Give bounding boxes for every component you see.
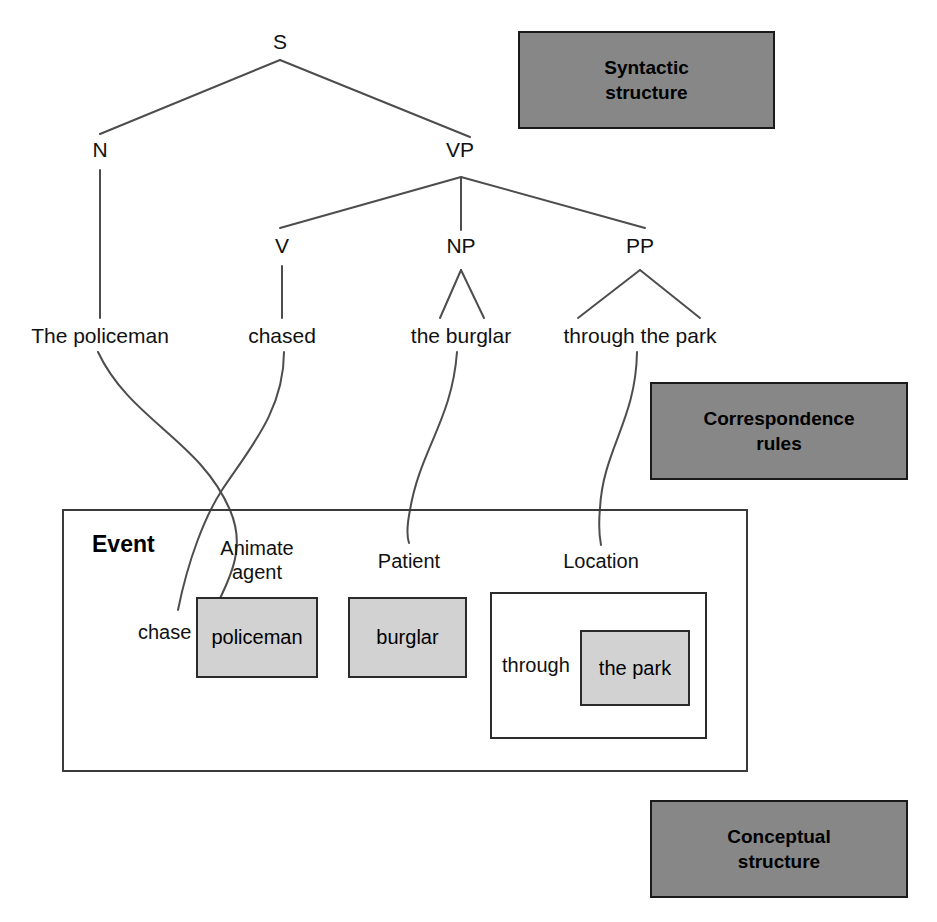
role-animate-agent-line2: agent [220, 560, 293, 584]
legend-syntactic-line2: structure [604, 80, 688, 105]
legend-correspondence-line1: Correspondence [704, 406, 855, 431]
role-label-animate-agent: Animate agent [220, 536, 293, 584]
edge-pp-leaf-left [578, 270, 640, 318]
tree-node-pp: PP [626, 234, 654, 258]
tree-leaf-through-the-park: through the park [564, 324, 717, 348]
figure-canvas: S N VP V NP PP The policeman chased the … [0, 0, 937, 922]
role-animate-agent-line1: Animate [220, 536, 293, 560]
location-preposition: through [502, 653, 570, 677]
legend-conceptual-line2: structure [727, 849, 830, 874]
legend-syntactic-structure: Syntactic structure [518, 31, 775, 129]
edge-np-leaf-left [440, 270, 461, 318]
tree-node-np: NP [446, 234, 475, 258]
edge-s-vp [280, 60, 470, 137]
tree-leaf-chased: chased [248, 324, 316, 348]
edge-pp-leaf-right [640, 270, 700, 318]
predicate-chase: chase [138, 620, 191, 644]
legend-conceptual-line1: Conceptual [727, 824, 830, 849]
role-location-line1: Location [563, 549, 639, 573]
role-label-location: Location [563, 549, 639, 573]
tree-node-vp: VP [446, 138, 474, 162]
legend-correspondence-rules: Correspondence rules [650, 382, 908, 480]
tree-node-s: S [273, 30, 287, 54]
tree-leaf-the-burglar: the burglar [411, 324, 511, 348]
role-patient-line1: Patient [378, 549, 440, 573]
event-title: Event [92, 531, 155, 558]
filler-box-burglar: burglar [348, 597, 467, 678]
edge-s-n [100, 60, 280, 134]
edge-vp-pp [461, 177, 645, 228]
legend-syntactic-line1: Syntactic [604, 55, 688, 80]
legend-correspondence-line2: rules [704, 431, 855, 456]
filler-box-the-park: the park [580, 630, 690, 706]
tree-node-n: N [92, 138, 107, 162]
tree-node-v: V [275, 234, 289, 258]
edge-np-leaf-right [461, 270, 484, 318]
role-label-patient: Patient [378, 549, 440, 573]
filler-box-policeman: policeman [196, 597, 318, 678]
tree-leaf-the-policeman: The policeman [31, 324, 169, 348]
legend-conceptual-structure: Conceptual structure [650, 800, 908, 898]
edge-vp-v [280, 177, 461, 228]
